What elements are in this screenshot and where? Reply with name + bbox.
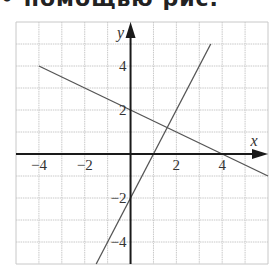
y-tick-label: −4 [111,234,127,250]
axes [16,22,268,264]
x-tick-label: 2 [173,157,181,173]
x-tick-label: 4 [218,157,226,173]
x-tick-label: −2 [77,157,93,173]
grid-lines [16,22,268,264]
x-axis-label: x [249,132,257,149]
x-axis-arrow-icon [252,149,268,159]
y-tick-label: 4 [119,58,127,74]
y-tick-label: 2 [119,102,127,118]
y-tick-label: −2 [111,190,127,206]
tick-labels: −4−22442−2−4xy [31,24,258,250]
coordinate-plot: −4−22442−2−4xy [0,0,277,269]
x-tick-label: −4 [31,157,47,173]
y-axis-label: y [115,24,125,42]
y-axis-arrow-icon [126,22,136,38]
